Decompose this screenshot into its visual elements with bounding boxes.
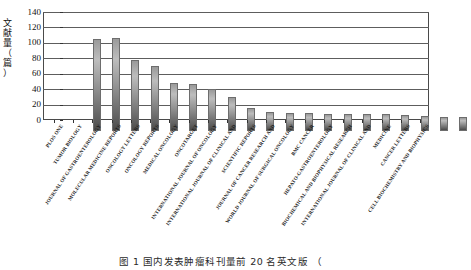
bar-slot [434,25,453,131]
bar-slot [338,25,357,131]
bar-series [87,25,471,131]
bar-slot [184,25,203,131]
bar-slot [261,25,280,131]
y-tick-mark [60,27,63,28]
y-tick-mark [60,58,63,59]
bar-slot [299,25,318,131]
y-tick-mark [60,43,63,44]
y-tick-mark [60,89,63,90]
y-axis-title: 文献量（篇） [0,18,15,78]
bar-slot [415,25,434,131]
x-tick-label: MEDICINE [371,123,392,149]
bar-slot [377,25,396,131]
bar-slot [280,25,299,131]
y-axis-title-char: （ [0,48,15,58]
bar-slot [454,25,471,131]
x-axis-labels: PLOS ONETUMOR BIOLOGYJOURNAL OF GASTROEN… [44,123,428,248]
bar [440,117,448,131]
y-tick-mark [60,12,63,13]
y-tick-mark [60,74,63,75]
x-tick-label: PLOS ONE [44,123,64,149]
x-tick-label: SCIENTIFIC REPORTS [219,123,256,174]
y-tick-label: 80 [19,54,41,63]
figure-caption: 图 1 国内发表肿瘤科刊量前 20 名英文版 （ [0,256,441,270]
y-tick-label: 0 [19,116,41,125]
x-tick-label: MEDICAL ONCOLOGY [142,123,180,175]
x-tick-label: ONCOLOGY REPORTS [123,123,160,174]
bar-slot [203,25,222,131]
y-tick-mark [60,105,63,106]
bar-slot [241,25,260,131]
bar [459,117,467,131]
y-axis-title-char: ） [0,68,15,78]
bar-slot [106,25,125,131]
bar-slot [357,25,376,131]
bar-slot [145,25,164,131]
bar-slot [396,25,415,131]
y-tick-label: 40 [19,85,41,94]
y-axis-title-char: 量 [0,38,15,48]
bar-slot [319,25,338,131]
y-axis-ticks: 020406080100120140 [17,12,41,120]
bar [112,38,120,131]
bar-slot [164,25,183,131]
bar-slot [222,25,241,131]
y-tick-label: 20 [19,100,41,109]
y-tick-label: 60 [19,69,41,78]
y-axis-title-char: 篇 [0,58,15,68]
bar-slot [126,25,145,131]
chart-plot-area [43,12,429,120]
y-axis-title-char: 文 [0,18,15,28]
y-tick-label: 140 [19,8,41,17]
x-tick-label: ONCOLOGY LETTERS [104,123,141,174]
gridline [43,12,429,13]
bar-slot [87,25,106,131]
bar [93,39,101,131]
y-tick-label: 120 [19,23,41,32]
y-axis-title-char: 献 [0,28,15,38]
y-tick-label: 100 [19,38,41,47]
x-tick-label: BIOCHEMICAL AND BIOPHYSICAL RESEARCH [280,123,353,227]
